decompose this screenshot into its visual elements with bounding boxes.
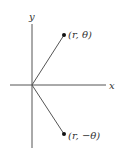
polar-symmetry-diagram: y x (r, θ) (r, −θ): [0, 0, 121, 152]
ray-neg-theta: [32, 85, 64, 134]
point-label-r-theta: (r, θ): [68, 29, 92, 40]
x-axis-label: x: [109, 80, 115, 91]
point-label-r-neg-theta: (r, −θ): [68, 130, 100, 141]
ray-theta: [32, 35, 64, 85]
y-axis-label: y: [28, 11, 35, 22]
point-r-theta: [62, 33, 66, 37]
point-r-neg-theta: [62, 132, 66, 136]
